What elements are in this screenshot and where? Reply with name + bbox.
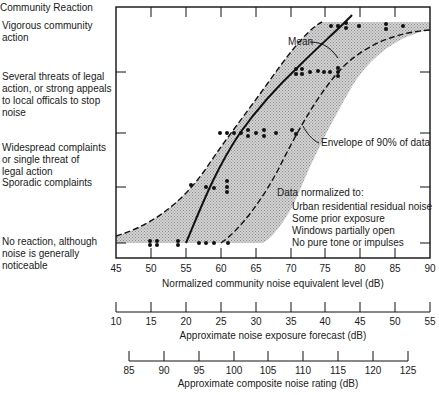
svg-text:90: 90	[158, 365, 170, 376]
svg-text:95: 95	[193, 365, 205, 376]
svg-text:10: 10	[110, 316, 122, 327]
svg-text:115: 115	[330, 365, 346, 376]
chart-svg: Mean Envelope of 90% of data Data normal…	[0, 0, 439, 395]
svg-text:40: 40	[319, 316, 331, 327]
svg-text:50: 50	[145, 263, 157, 274]
svg-text:55: 55	[180, 263, 192, 274]
svg-text:15: 15	[145, 316, 157, 327]
svg-text:50: 50	[389, 316, 401, 327]
top-ticks	[151, 7, 395, 17]
svg-text:55: 55	[424, 316, 436, 327]
axis3-tick-labels: 85 90 95 100 105 110 115 120 125	[123, 365, 416, 376]
normalized-title: Data normalized to:	[277, 187, 364, 198]
svg-text:80: 80	[354, 263, 366, 274]
svg-text:65: 65	[250, 263, 262, 274]
svg-text:20: 20	[180, 316, 192, 327]
svg-text:110: 110	[295, 365, 311, 376]
svg-text:120: 120	[365, 365, 382, 376]
svg-text:25: 25	[215, 316, 227, 327]
svg-text:100: 100	[226, 365, 243, 376]
svg-text:35: 35	[285, 316, 297, 327]
envelope-label: Envelope of 90% of data	[321, 137, 430, 148]
svg-text:85: 85	[389, 263, 401, 274]
axis2-tick-labels: 10 15 20 25 30 35 40 45 50 55	[110, 316, 436, 327]
svg-text:45: 45	[110, 263, 122, 274]
normalized-item-1: Urban residential residual noise	[292, 201, 433, 212]
normalized-item-2: Some prior exposure	[292, 213, 385, 224]
mean-label: Mean	[288, 36, 313, 47]
axis1-tick-labels: 45 50 55 60 65 70 75 80 85 90	[110, 263, 436, 274]
axis3-line	[129, 351, 408, 361]
axis3-title: Approximate composite noise rating (dB)	[178, 378, 359, 389]
svg-text:125: 125	[400, 365, 417, 376]
svg-text:75: 75	[319, 263, 331, 274]
svg-text:105: 105	[260, 365, 277, 376]
normalized-item-3: Windows partially open	[292, 225, 395, 236]
svg-text:90: 90	[424, 263, 436, 274]
svg-text:60: 60	[215, 263, 227, 274]
svg-text:70: 70	[285, 263, 297, 274]
axis2-title: Approximate noise exposure forecast (dB)	[180, 330, 367, 341]
axis1-title: Normalized community noise equivalent le…	[162, 278, 384, 289]
normalized-item-4: No pure tone or impulses	[292, 237, 404, 248]
bottom-ticks	[151, 248, 395, 258]
svg-text:30: 30	[250, 316, 262, 327]
svg-text:45: 45	[354, 316, 366, 327]
axis2-line	[116, 302, 430, 312]
svg-text:85: 85	[123, 365, 135, 376]
